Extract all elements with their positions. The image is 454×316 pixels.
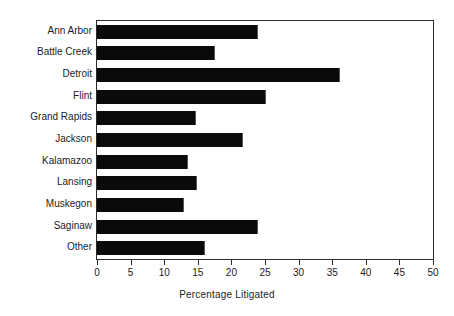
bar-chart-figure: Ann ArborBattle CreekDetroitFlintGrand R…	[0, 0, 454, 316]
x-tick-mark	[131, 260, 132, 265]
x-tick-label: 0	[84, 267, 110, 278]
bar-ann-arbor	[97, 25, 258, 39]
category-label-saginaw: Saginaw	[0, 221, 92, 231]
category-label-detroit: Detroit	[0, 69, 92, 79]
x-tick-label: 40	[353, 267, 379, 278]
bars-layer	[97, 21, 433, 259]
x-tick-label: 20	[218, 267, 244, 278]
bar-lansing	[97, 176, 197, 190]
x-tick-label: 45	[386, 267, 412, 278]
bar-jackson	[97, 133, 243, 147]
bar-grand-rapids	[97, 111, 196, 125]
category-label-battle-creek: Battle Creek	[0, 47, 92, 57]
category-label-muskegon: Muskegon	[0, 199, 92, 209]
x-tick-mark	[366, 260, 367, 265]
x-tick-mark	[332, 260, 333, 265]
x-tick-label: 25	[252, 267, 278, 278]
x-tick-mark	[433, 260, 434, 265]
x-tick-mark	[198, 260, 199, 265]
x-tick-mark	[164, 260, 165, 265]
x-tick-label: 50	[420, 267, 446, 278]
x-tick-mark	[399, 260, 400, 265]
x-tick-label: 10	[151, 267, 177, 278]
bar-other	[97, 241, 205, 255]
bar-saginaw	[97, 220, 258, 234]
bar-flint	[97, 90, 266, 104]
x-tick-mark	[265, 260, 266, 265]
category-label-ann-arbor: Ann Arbor	[0, 26, 92, 36]
x-tick-mark	[97, 260, 98, 265]
x-tick-label: 15	[185, 267, 211, 278]
bar-kalamazoo	[97, 155, 188, 169]
category-label-lansing: Lansing	[0, 177, 92, 187]
x-tick-mark	[299, 260, 300, 265]
category-label-flint: Flint	[0, 91, 92, 101]
x-axis-title: Percentage Litigated	[0, 289, 454, 300]
category-label-grand-rapids: Grand Rapids	[0, 112, 92, 122]
bar-battle-creek	[97, 46, 215, 60]
chart-title	[0, 0, 454, 3]
category-label-jackson: Jackson	[0, 134, 92, 144]
category-label-other: Other	[0, 242, 92, 252]
x-tick-label: 30	[286, 267, 312, 278]
bar-detroit	[97, 68, 340, 82]
bar-muskegon	[97, 198, 184, 212]
x-tick-mark	[231, 260, 232, 265]
x-axis: 05101520253035404550	[96, 260, 434, 290]
category-label-kalamazoo: Kalamazoo	[0, 156, 92, 166]
x-tick-label: 5	[118, 267, 144, 278]
category-axis: Ann ArborBattle CreekDetroitFlintGrand R…	[0, 20, 92, 260]
x-tick-label: 35	[319, 267, 345, 278]
